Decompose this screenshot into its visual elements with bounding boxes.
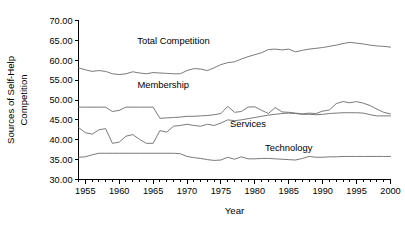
x-axis-tick-labels: 1955196019651970197519801985199019952000 <box>75 186 401 196</box>
x-tick-label: 1970 <box>177 186 197 196</box>
y-axis-title-line: Sources of Self-Help <box>5 56 16 144</box>
x-tick-label: 1990 <box>312 186 332 196</box>
series-label-total-competition: Total Competition <box>137 35 209 46</box>
y-axis-title-line: Competition <box>18 74 29 125</box>
x-axis-title: Year <box>225 205 245 216</box>
series-line-total-competition <box>79 42 391 74</box>
y-tick-label: 60.00 <box>50 56 73 66</box>
line-chart: 30.0035.0040.0045.0050.0055.0060.0065.00… <box>0 0 405 233</box>
x-tick-label: 1995 <box>346 186 366 196</box>
y-tick-label: 45.00 <box>50 115 73 125</box>
y-tick-label: 40.00 <box>50 135 73 145</box>
x-tick-label: 1980 <box>245 186 265 196</box>
chart-axes <box>79 21 391 180</box>
x-tick-label: 1965 <box>143 186 163 196</box>
x-tick-label: 1955 <box>75 186 95 196</box>
series-line-membership <box>79 102 391 119</box>
y-tick-label: 50.00 <box>50 95 73 105</box>
x-tick-label: 2000 <box>380 186 400 196</box>
y-axis-tick-labels: 30.0035.0040.0045.0050.0055.0060.0065.00… <box>50 16 73 185</box>
y-tick-label: 65.00 <box>50 36 73 46</box>
series-line-technology <box>79 153 391 160</box>
x-tick-label: 1960 <box>109 186 129 196</box>
x-tick-label: 1975 <box>211 186 231 196</box>
x-tick-label: 1985 <box>279 186 299 196</box>
series-label-technology: Technology <box>265 142 313 153</box>
series-label-membership: Membership <box>137 79 189 90</box>
y-tick-label: 30.00 <box>50 175 73 185</box>
series-label-services: Services <box>230 118 266 129</box>
chart-series-labels: Total CompetitionMembershipServicesTechn… <box>137 35 313 153</box>
y-tick-label: 35.00 <box>50 155 73 165</box>
y-tick-label: 70.00 <box>50 16 73 26</box>
y-tick-label: 55.00 <box>50 75 73 85</box>
chart-series-lines <box>79 42 391 160</box>
chart-figure: 30.0035.0040.0045.0050.0055.0060.0065.00… <box>0 0 405 233</box>
